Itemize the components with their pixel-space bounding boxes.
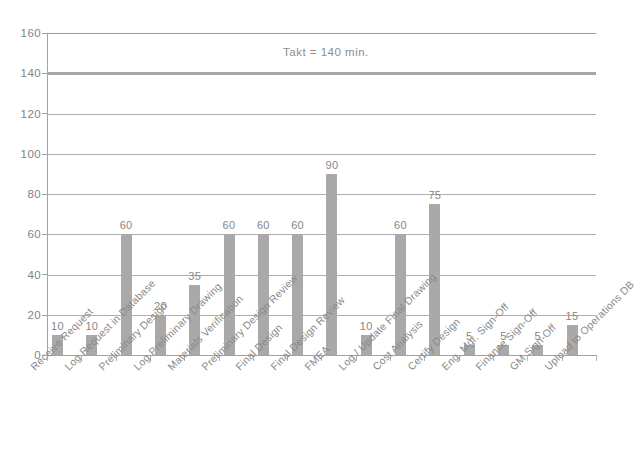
y-tick-label: 120 [21, 108, 41, 120]
gridline-80 [47, 194, 596, 195]
y-tick-label: 60 [27, 228, 41, 240]
bar-value-8: 90 [325, 159, 338, 171]
bar-value-7: 60 [291, 219, 304, 231]
y-tick-label: 20 [27, 309, 41, 321]
gridline-160 [47, 33, 596, 34]
y-tick-label: 80 [27, 188, 41, 200]
y-axis-labels: 160 140 120 100 80 60 40 20 0 [0, 33, 41, 355]
bar-value-10: 60 [394, 219, 407, 231]
y-tick-label: 100 [21, 148, 41, 160]
bar-value-11: 75 [428, 189, 441, 201]
bar-value-6: 60 [257, 219, 270, 231]
gridline-120 [47, 114, 596, 115]
bar-8 [326, 174, 337, 355]
gridline-100 [47, 154, 596, 155]
y-tick-label: 140 [21, 67, 41, 79]
y-tick-label: 160 [21, 27, 41, 39]
x-tick-mark [596, 356, 597, 361]
bar-value-4: 35 [188, 270, 201, 282]
y-tick-label: 40 [27, 269, 41, 281]
bar-value-2: 60 [120, 219, 133, 231]
bar-value-15: 15 [566, 310, 579, 322]
takt-annotation-label: Takt = 140 min. [283, 46, 369, 58]
takt-reference-line [47, 72, 596, 75]
bar-value-5: 60 [223, 219, 236, 231]
